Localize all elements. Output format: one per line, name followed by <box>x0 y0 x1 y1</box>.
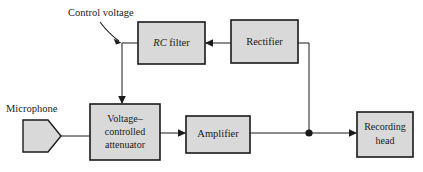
block-amplifier-label: Amplifier <box>197 128 239 139</box>
block-attenuator-label-line1: Voltage– <box>107 113 143 124</box>
block-rc-filter-label: RC filter <box>152 37 190 48</box>
block-amplifier[interactable]: Amplifier <box>186 116 250 153</box>
rc-filter-label-plain: filter <box>167 37 191 48</box>
block-recording-head-label-line2: head <box>376 135 395 146</box>
control-voltage-pointer <box>100 22 122 45</box>
arrowhead-into-rc-filter <box>205 39 213 47</box>
block-rc-filter[interactable]: RC filter <box>138 22 205 64</box>
block-rectifier[interactable]: Rectifier <box>231 20 298 63</box>
block-recording-head-label-line1: Recording <box>364 121 406 132</box>
wire-rc-filter-to-attenuator <box>122 43 138 103</box>
block-recording-head[interactable]: Recording head <box>357 112 413 157</box>
wire-rectifier-to-junction <box>298 43 309 133</box>
diagram-svg: RC filter Rectifier Voltage– controlled … <box>0 0 423 172</box>
arrowhead-into-recording-head <box>349 129 357 137</box>
arrowhead-into-attenuator <box>118 96 126 104</box>
block-rectifier-label: Rectifier <box>246 36 283 47</box>
block-attenuator-label-line2: controlled <box>105 126 146 137</box>
block-diagram-canvas: RC filter Rectifier Voltage– controlled … <box>0 0 423 172</box>
arrowhead-into-amplifier <box>178 129 186 137</box>
control-voltage-label: Control voltage <box>68 7 134 18</box>
block-voltage-controlled-attenuator[interactable]: Voltage– controlled attenuator <box>90 104 160 160</box>
rc-filter-label-italic: RC <box>152 37 167 48</box>
junction-dot <box>305 129 312 136</box>
microphone-symbol <box>23 120 61 152</box>
block-attenuator-label-line3: attenuator <box>105 139 146 150</box>
microphone-label: Microphone <box>6 103 58 114</box>
control-voltage-curve <box>100 22 119 41</box>
